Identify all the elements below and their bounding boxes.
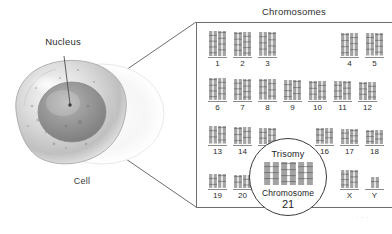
trisomy-21-diagram: Nucleus Cell Chromosomes 123456789101112… — [0, 0, 392, 234]
trisomy-chromosome-art — [250, 161, 326, 185]
chromosome-pair-art — [205, 75, 230, 100]
chromosome-pair-11: 11 — [330, 75, 355, 113]
nucleus-label: Nucleus — [32, 36, 94, 47]
pair-number-label: 5 — [362, 58, 387, 69]
chromosome-pair-12: 12 — [355, 75, 380, 113]
pair-number-label: 9 — [280, 102, 305, 113]
chromosome-pair-art — [205, 31, 230, 56]
chromosome-pair-5: 5 — [362, 31, 387, 69]
chromosome-pair-4: 4 — [337, 31, 362, 69]
pair-number-label: Y — [362, 190, 387, 201]
chromosome-pair-3: 3 — [255, 31, 280, 69]
pair-number-label: 14 — [230, 146, 255, 157]
panel-title: Chromosomes — [196, 6, 392, 17]
watermark: · · · — [356, 214, 369, 221]
pair-number-label: 8 — [255, 102, 280, 113]
chromosome-pair-art — [205, 119, 230, 144]
chromosome-pair-art — [362, 119, 387, 144]
chromosome-pair-art — [337, 163, 362, 188]
trisomy-label: Trisomy — [250, 149, 326, 159]
chromosome-pair-1: 1 — [205, 31, 230, 69]
chromosome-pair-art — [337, 119, 362, 144]
pair-number-label: 13 — [205, 146, 230, 157]
cell-illustration — [0, 48, 190, 188]
pair-number-label: 4 — [337, 58, 362, 69]
karyotype-row-1: 12345 — [197, 29, 392, 69]
chromosome-pair-art — [230, 75, 255, 100]
chromosome-pair-art — [330, 75, 355, 100]
chromosome-pair-art — [230, 31, 255, 56]
chromosome-pair-18: 18 — [362, 119, 387, 157]
chromosome-pair-art — [305, 75, 330, 100]
chromosome-pair-17: 17 — [337, 119, 362, 157]
chromosome-pair-art — [362, 31, 387, 56]
chromosome-pair-art — [312, 119, 337, 144]
chromosome-pair-art — [362, 163, 387, 188]
pair-number-label: 18 — [362, 146, 387, 157]
chromosome-pair-art — [205, 163, 230, 188]
pair-number-label: 19 — [205, 190, 230, 201]
pair-number-label: 3 — [255, 58, 280, 69]
pair-number-label: 12 — [355, 102, 380, 113]
chromosome-pair-art — [230, 119, 255, 144]
chromosome-pair-14: 14 — [230, 119, 255, 157]
chromosome-pair-art — [355, 75, 380, 100]
karyotype-row-2: 6789101112 — [197, 73, 392, 113]
chromosome-pair-art — [255, 75, 280, 100]
chromosome-label: Chromosome — [250, 188, 326, 198]
pair-number-label: 7 — [230, 102, 255, 113]
chromosome-pair-art — [280, 75, 305, 100]
pair-number-label: 10 — [305, 102, 330, 113]
pair-number-label: 6 — [205, 102, 230, 113]
pair-number-label: 11 — [330, 102, 355, 113]
chromosome-pair-x: X — [337, 163, 362, 201]
chromosome-pair-10: 10 — [305, 75, 330, 113]
chromosome-pair-8: 8 — [255, 75, 280, 113]
pair-number-label: X — [337, 190, 362, 201]
pair-number-label: 2 — [230, 58, 255, 69]
chromosome-pair-art — [255, 31, 280, 56]
chromosome-pair-19: 19 — [205, 163, 230, 201]
chromosome-pair-7: 7 — [230, 75, 255, 113]
cell-label: Cell — [52, 176, 112, 186]
trisomy-callout: Trisomy Chromosome 21 — [249, 138, 327, 216]
chromosome-pair-2: 2 — [230, 31, 255, 69]
chromosome-pair-9: 9 — [280, 75, 305, 113]
chromosome-pair-y: Y — [362, 163, 387, 201]
chromosome-pair-6: 6 — [205, 75, 230, 113]
chromosome-pair-art — [337, 31, 362, 56]
pair-number-label: 1 — [205, 58, 230, 69]
pair-number-label: 17 — [337, 146, 362, 157]
chromosome-pair-13: 13 — [205, 119, 230, 157]
